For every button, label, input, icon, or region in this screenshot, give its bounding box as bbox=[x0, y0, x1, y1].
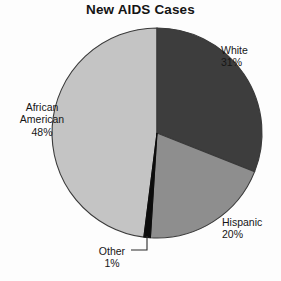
slice-label-white-value: 31% bbox=[221, 56, 248, 68]
slice-label-white: White 31% bbox=[221, 44, 248, 69]
slice-label-african-american-name-line2: American bbox=[6, 113, 78, 125]
pie-chart: New AIDS Cases White 31% African America… bbox=[0, 0, 281, 281]
slice-label-african-american: African American 48% bbox=[6, 101, 78, 138]
slice-label-african-american-value: 48% bbox=[6, 126, 78, 138]
slice-label-white-name: White bbox=[221, 44, 248, 56]
slice-label-african-american-name-line1: African bbox=[26, 101, 59, 113]
slice-label-hispanic-value: 20% bbox=[222, 228, 262, 240]
slice-label-other-name: Other bbox=[99, 245, 125, 257]
slice-label-other-value: 1% bbox=[88, 257, 136, 269]
slice-label-hispanic: Hispanic 20% bbox=[222, 216, 262, 241]
slice-label-other: Other 1% bbox=[88, 245, 136, 270]
slice-label-hispanic-name: Hispanic bbox=[222, 216, 262, 228]
